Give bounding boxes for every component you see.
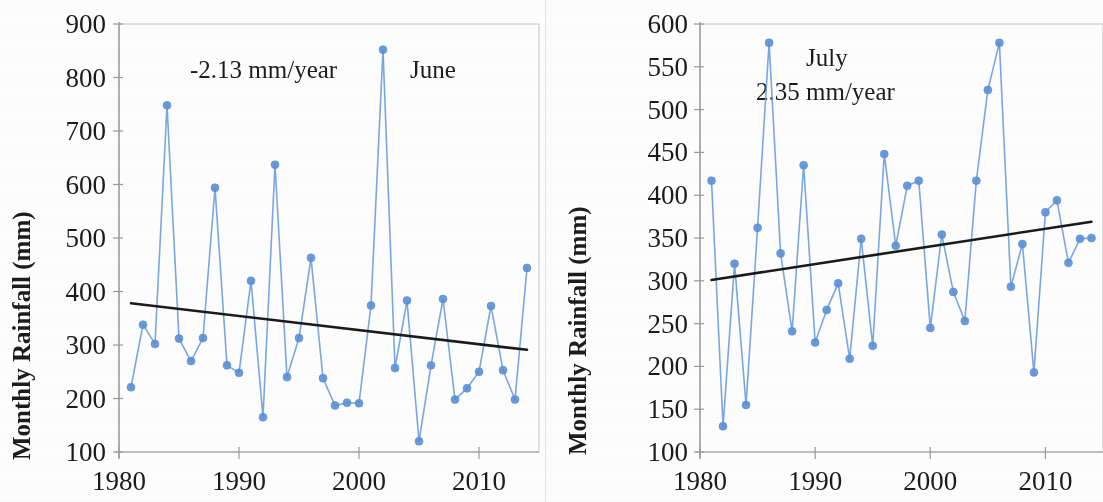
data-point-marker <box>1041 208 1049 216</box>
data-point-marker <box>903 182 911 190</box>
chart-panel-june: Monthly Rainfall (mm) 100200300400500600… <box>0 0 556 502</box>
data-point-marker <box>463 384 471 392</box>
data-point-marker <box>499 366 507 374</box>
data-point-marker <box>175 335 183 343</box>
data-point-marker <box>846 355 854 363</box>
data-point-marker <box>367 301 375 309</box>
data-point-marker <box>511 396 519 404</box>
data-point-marker <box>307 254 315 262</box>
data-point-marker <box>754 224 762 232</box>
data-point-marker <box>731 260 739 268</box>
data-point-marker <box>139 321 147 329</box>
data-point-marker <box>331 401 339 409</box>
data-point-marker <box>1007 283 1015 291</box>
data-point-marker <box>295 334 303 342</box>
data-point-marker <box>892 242 900 250</box>
data-point-marker <box>995 39 1003 47</box>
data-point-marker <box>765 39 773 47</box>
data-point-marker <box>788 327 796 335</box>
figure-container: Monthly Rainfall (mm) 100200300400500600… <box>0 0 1103 502</box>
data-point-marker <box>811 338 819 346</box>
data-point-marker <box>857 235 865 243</box>
data-point-marker <box>1087 234 1095 242</box>
data-point-marker <box>834 279 842 287</box>
data-point-marker <box>151 340 159 348</box>
data-point-marker <box>127 383 135 391</box>
data-point-marker <box>800 161 808 169</box>
data-point-marker <box>984 86 992 94</box>
data-point-marker <box>719 422 727 430</box>
chart-panel-july: Monthly Rainfall (mm) 100150200250300350… <box>556 0 1103 502</box>
data-point-marker <box>163 101 171 109</box>
data-point-marker <box>1076 235 1084 243</box>
data-point-marker <box>938 231 946 239</box>
data-point-marker <box>223 361 231 369</box>
data-point-marker <box>475 368 483 376</box>
data-point-marker <box>880 150 888 158</box>
data-point-marker <box>1030 368 1038 376</box>
data-point-marker <box>439 295 447 303</box>
data-point-marker <box>949 288 957 296</box>
chart-svg-july <box>556 0 1103 502</box>
data-point-marker <box>972 177 980 185</box>
data-point-marker <box>487 302 495 310</box>
data-point-marker <box>708 177 716 185</box>
data-point-marker <box>523 264 531 272</box>
data-point-marker <box>355 399 363 407</box>
data-point-marker <box>869 342 877 350</box>
data-point-marker <box>403 297 411 305</box>
data-point-marker <box>1053 196 1061 204</box>
data-point-marker <box>777 249 785 257</box>
data-point-marker <box>415 437 423 445</box>
data-point-marker <box>283 373 291 381</box>
data-point-marker <box>451 396 459 404</box>
data-point-marker <box>319 374 327 382</box>
data-point-marker <box>926 324 934 332</box>
data-point-marker <box>961 317 969 325</box>
data-point-marker <box>915 177 923 185</box>
data-point-marker <box>187 357 195 365</box>
data-point-marker <box>742 401 750 409</box>
data-point-marker <box>211 184 219 192</box>
chart-svg-june <box>0 0 556 502</box>
data-point-marker <box>259 413 267 421</box>
data-point-marker <box>1018 240 1026 248</box>
data-point-marker <box>271 161 279 169</box>
data-point-marker <box>199 334 207 342</box>
data-point-marker <box>427 361 435 369</box>
data-point-marker <box>379 46 387 54</box>
data-point-marker <box>247 277 255 285</box>
data-point-marker <box>823 306 831 314</box>
data-point-marker <box>391 364 399 372</box>
data-point-marker <box>1064 259 1072 267</box>
data-point-marker <box>343 399 351 407</box>
data-point-marker <box>235 369 243 377</box>
